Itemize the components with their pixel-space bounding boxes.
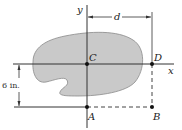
- d-arrow-left: [88, 16, 93, 19]
- label-a: A: [87, 111, 95, 122]
- area-diagram: y x C D A B d 6 in.: [0, 0, 182, 130]
- point-a: [85, 105, 89, 109]
- label-b: B: [152, 111, 160, 122]
- point-b: [150, 105, 154, 109]
- six-in-arrow-up: [18, 65, 21, 70]
- d-arrow-right: [146, 16, 151, 19]
- six-in-arrow-down: [18, 101, 21, 106]
- y-axis-label: y: [76, 4, 83, 15]
- label-d: D: [153, 52, 162, 63]
- dimension-6in-label: 6 in.: [2, 81, 20, 90]
- x-axis-label: x: [168, 65, 174, 76]
- dimension-d-label: d: [114, 11, 120, 22]
- label-c: C: [89, 52, 97, 63]
